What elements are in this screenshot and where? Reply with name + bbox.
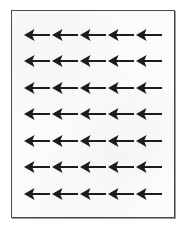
arrow-left-icon: [107, 134, 135, 148]
arrow-left-icon: [79, 54, 107, 68]
arrow-row: [12, 54, 174, 68]
arrow-left-icon: [135, 107, 163, 121]
arrow-row: [12, 81, 174, 95]
arrow-left-icon: [23, 134, 51, 148]
arrow-left-icon: [23, 28, 51, 42]
arrow-left-icon: [79, 81, 107, 95]
arrow-left-icon: [107, 160, 135, 174]
arrow-row: [12, 28, 174, 42]
arrow-left-icon: [51, 134, 79, 148]
arrow-left-icon: [51, 160, 79, 174]
arrow-left-icon: [51, 81, 79, 95]
arrow-left-icon: [51, 187, 79, 201]
arrow-left-icon: [23, 187, 51, 201]
arrow-left-icon: [23, 160, 51, 174]
arrow-left-icon: [23, 107, 51, 121]
arrow-left-icon: [23, 81, 51, 95]
arrow-left-icon: [79, 28, 107, 42]
arrow-left-icon: [135, 160, 163, 174]
arrow-left-icon: [135, 54, 163, 68]
arrow-left-icon: [135, 81, 163, 95]
arrow-grid: [12, 11, 174, 217]
arrow-row: [12, 134, 174, 148]
arrow-left-icon: [135, 187, 163, 201]
arrow-left-icon: [79, 160, 107, 174]
arrow-left-icon: [51, 107, 79, 121]
arrow-row: [12, 160, 174, 174]
arrow-left-icon: [135, 134, 163, 148]
arrow-left-icon: [107, 81, 135, 95]
figure-root: [0, 0, 188, 230]
arrow-left-icon: [51, 54, 79, 68]
arrow-row: [12, 187, 174, 201]
arrow-left-icon: [107, 54, 135, 68]
arrow-left-icon: [79, 134, 107, 148]
arrow-left-icon: [51, 28, 79, 42]
arrow-left-icon: [107, 107, 135, 121]
arrow-left-icon: [107, 187, 135, 201]
arrow-left-icon: [23, 54, 51, 68]
arrow-row: [12, 107, 174, 121]
arrow-panel: [11, 10, 175, 218]
arrow-left-icon: [79, 107, 107, 121]
arrow-left-icon: [107, 28, 135, 42]
arrow-left-icon: [135, 28, 163, 42]
arrow-left-icon: [79, 187, 107, 201]
